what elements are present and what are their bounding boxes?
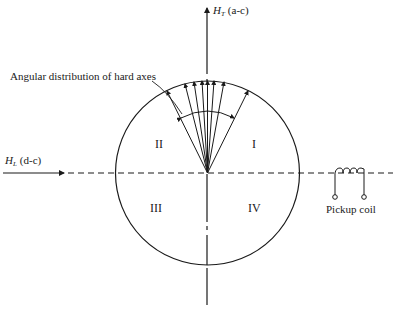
quadrant-III: III xyxy=(150,201,162,215)
diagram-canvas: HT(a-c) HL(d-c) Angular distribution of … xyxy=(0,0,393,309)
pickup-coil-label: Pickup coil xyxy=(326,203,376,215)
hard-axes-fan xyxy=(167,81,248,173)
quadrant-II: II xyxy=(155,137,163,151)
quadrant-IV: IV xyxy=(248,201,261,215)
horizontal-axis-label: HL(d-c) xyxy=(4,154,42,168)
vertical-axis-label: HT(a-c) xyxy=(212,4,249,18)
annotation-label: Angular distribution of hard axes xyxy=(10,70,156,82)
quadrant-I: I xyxy=(252,137,256,151)
